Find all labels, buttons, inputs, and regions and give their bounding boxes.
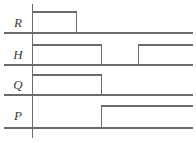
signal-label-R: R <box>13 15 22 30</box>
signal-trace-Q <box>33 75 194 95</box>
signal-label-Q: Q <box>13 77 23 92</box>
signal-label-H: H <box>12 47 23 62</box>
signal-label-P: P <box>13 108 22 123</box>
signal-label-group: RHQP <box>12 15 23 123</box>
timing-diagram-canvas: RHQP <box>0 0 196 143</box>
timing-diagram: RHQP <box>0 0 196 143</box>
signal-trace-R <box>33 12 194 33</box>
signal-trace-H <box>33 45 194 65</box>
signal-trace-P <box>33 106 194 128</box>
